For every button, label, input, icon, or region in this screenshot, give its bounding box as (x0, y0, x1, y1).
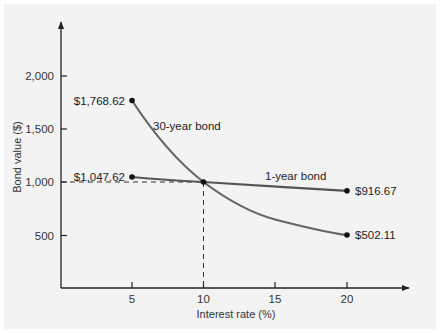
label-30yr-start: $1,768.62 (74, 95, 125, 107)
x-tick-10: 10 (197, 293, 210, 305)
y-tick-1500: 1,500 (25, 123, 54, 135)
y-tick-1000: 1,000 (25, 176, 54, 188)
x-tick-15: 15 (269, 293, 282, 305)
y-axis-title: Bond value ($) (11, 121, 23, 193)
series-label-30-year: 30-year bond (153, 120, 221, 132)
label-30yr-end: $502.11 (355, 229, 396, 241)
x-tick-5: 5 (129, 293, 135, 305)
x-tick-20: 20 (341, 293, 354, 305)
point-30yr-end (344, 232, 350, 238)
bond-value-chart: 500 1,000 1,500 2,000 5 10 15 20 Interes… (0, 0, 440, 333)
point-1yr-end (344, 188, 350, 194)
y-tick-500: 500 (35, 230, 54, 242)
y-tick-2000: 2,000 (25, 70, 54, 82)
point-1yr-start (129, 174, 135, 180)
point-30yr-start (129, 98, 135, 104)
x-ticks (132, 282, 347, 288)
series-label-1-year: 1-year bond (265, 170, 326, 182)
point-intersection (201, 179, 207, 185)
y-ticks (61, 76, 67, 236)
label-1yr-end: $916.67 (355, 185, 397, 197)
x-axis-title: Interest rate (%) (197, 308, 276, 320)
label-1yr-start: $1,047.62 (74, 171, 125, 183)
